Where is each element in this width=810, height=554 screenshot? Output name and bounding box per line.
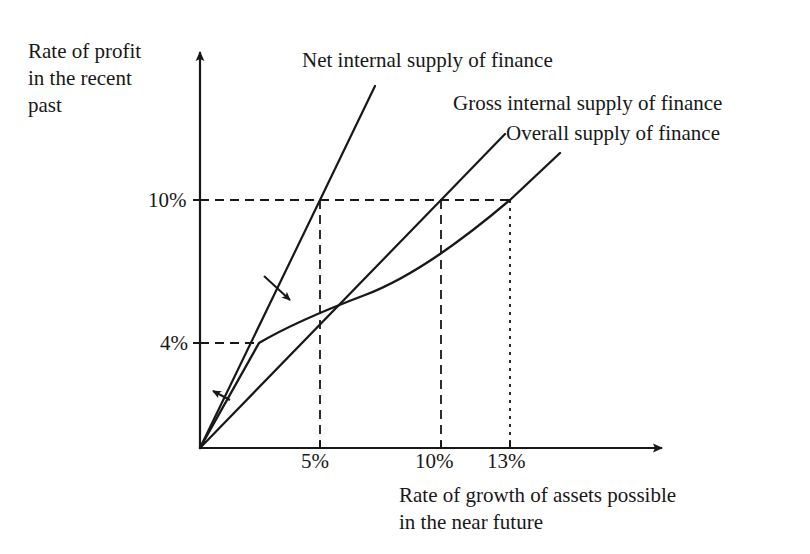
arrow-to-overall-curve-icon bbox=[264, 276, 290, 300]
curve-overall-supply bbox=[200, 153, 560, 448]
finance-supply-diagram: Rate of profit in the recent past Rate o… bbox=[0, 0, 810, 554]
curve-label-gross-internal-supply: Gross internal supply of finance bbox=[453, 90, 722, 117]
curve-net-internal-supply bbox=[200, 86, 375, 448]
y-axis-title: Rate of profit in the recent past bbox=[28, 38, 141, 119]
x-axis-tick-label-5pct: 5% bbox=[301, 448, 329, 475]
x-axis-tick-label-10pct: 10% bbox=[415, 448, 454, 475]
annotation-arrows-group bbox=[213, 276, 290, 400]
curve-gross-internal-supply bbox=[200, 134, 505, 448]
x-axis-title: Rate of growth of assets possible in the… bbox=[399, 482, 676, 536]
x-axis-tick-label-13pct: 13% bbox=[487, 448, 526, 475]
y-axis-tick-label-10pct: 10% bbox=[148, 187, 187, 214]
curve-label-overall-supply: Overall supply of finance bbox=[506, 120, 720, 147]
curve-label-net-internal-supply: Net internal supply of finance bbox=[302, 47, 553, 74]
y-axis-tick-label-4pct: 4% bbox=[160, 330, 188, 357]
